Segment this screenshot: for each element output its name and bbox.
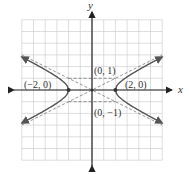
vertex-right-label: (2, 0) bbox=[125, 79, 147, 91]
vertex-left-point bbox=[67, 88, 71, 92]
x-axis-label: x bbox=[177, 83, 183, 95]
y-axis-label: y bbox=[87, 0, 93, 11]
covertex-top-label: (0, 1) bbox=[94, 65, 116, 77]
hyperbola-graph: x y (−2, 0) (2, 0) (0, 1) (0, −1) bbox=[0, 0, 189, 174]
vertex-left-label: (−2, 0) bbox=[24, 79, 51, 91]
covertex-bottom-label: (0, −1) bbox=[94, 107, 121, 119]
vertex-right-point bbox=[113, 88, 117, 92]
origin-point bbox=[91, 89, 94, 92]
